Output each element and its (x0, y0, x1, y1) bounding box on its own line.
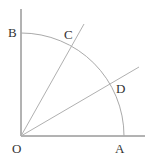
quarter-circle-diagram: B C D O A (0, 0, 151, 154)
ray-od (21, 67, 139, 136)
label-b: B (8, 25, 17, 40)
label-o: O (12, 141, 21, 154)
label-d: D (116, 81, 125, 96)
label-c: C (64, 27, 73, 42)
label-a: A (115, 141, 125, 154)
ray-oc (21, 24, 84, 136)
